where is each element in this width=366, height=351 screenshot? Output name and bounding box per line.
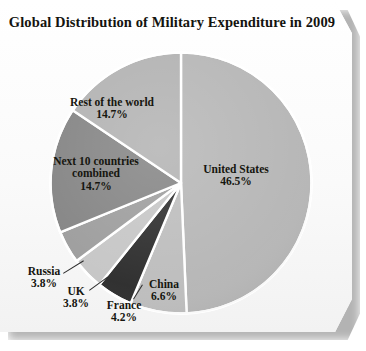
chart-card: Global Distribution of Military Expendit… — [0, 0, 366, 351]
slice-label-france: France 4.2% — [93, 299, 155, 324]
slice-label-france-percent: 4.2% — [93, 311, 155, 323]
slice-label-rest-of-the-world-name: Rest of the world — [52, 96, 172, 108]
slice-label-russia-name: Russia — [13, 265, 75, 277]
slice-label-uk-percent: 3.8% — [54, 297, 98, 309]
slice-label-rest-of-the-world: Rest of the world 14.7% — [52, 96, 172, 121]
slice-label-russia: Russia 3.8% — [13, 265, 75, 290]
slice-label-next-10-countries: Next 10 countries combined 14.7% — [38, 155, 154, 192]
slice-label-next-10-countries-name: Next 10 countries — [38, 155, 154, 167]
slice-label-france-name: France — [93, 299, 155, 311]
slice-label-united-states-percent: 46.5% — [188, 175, 284, 187]
slice-label-rest-of-the-world-percent: 14.7% — [52, 108, 172, 120]
slice-label-united-states: United States 46.5% — [188, 163, 284, 188]
slice-label-next-10-countries-percent: 14.7% — [38, 180, 154, 192]
slice-label-china-name: China — [133, 278, 195, 290]
slice-label-next-10-countries-name2: combined — [38, 167, 154, 179]
slice-label-united-states-name: United States — [188, 163, 284, 175]
slice-label-russia-percent: 3.8% — [13, 277, 75, 289]
